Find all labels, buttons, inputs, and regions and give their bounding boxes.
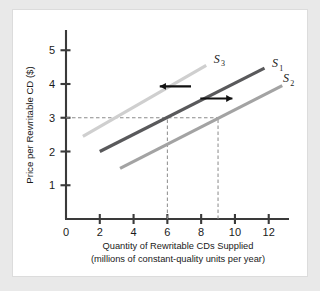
y-axis-title: Price per Rewritable CD ($) <box>24 66 35 183</box>
y-tick-label-5: 5 <box>49 44 55 56</box>
y-axis-tick-labels: 12345 <box>49 44 55 191</box>
x-tick-label-0: 0 <box>63 226 69 238</box>
x-tick-label-2: 2 <box>97 226 103 238</box>
axes <box>65 30 289 220</box>
x-tick-label-8: 8 <box>198 226 204 238</box>
figure-container: 12345 024681012 S3S1S2 Price per Rewrita… <box>0 0 320 291</box>
y-tick-label-2: 2 <box>49 146 55 158</box>
y-tick-label-4: 4 <box>49 78 55 90</box>
x-tick-label-4: 4 <box>131 226 137 238</box>
curve-label-S1: S1 <box>272 56 283 72</box>
supply-curves <box>83 65 282 168</box>
curve-label-text-S2: S <box>283 71 289 85</box>
x-axis-title-line2: (millions of constant-quality units per … <box>91 254 265 264</box>
y-tick-label-1: 1 <box>49 179 55 191</box>
shift-right-arrow-head <box>226 95 232 102</box>
shift-right-arrow <box>200 95 232 102</box>
y-tick-label-3: 3 <box>49 112 55 124</box>
curve-label-subscript-S3: 3 <box>221 59 225 68</box>
curve-label-text-S1: S <box>272 56 278 70</box>
supply-shift-chart: 12345 024681012 S3S1S2 Price per Rewrita… <box>0 0 320 291</box>
shift-arrows <box>160 83 233 102</box>
x-tick-label-10: 10 <box>229 226 241 238</box>
curve-label-S2: S2 <box>283 71 294 87</box>
x-tick-label-6: 6 <box>164 226 170 238</box>
curve-label-text-S3: S <box>214 52 220 66</box>
x-axis-title-line1: Quantity of Rewritable CDs Supplied <box>103 241 254 251</box>
supply-curve-labels: S3S1S2 <box>214 52 294 88</box>
curve-label-subscript-S2: 2 <box>290 79 294 88</box>
supply-curve-S3 <box>83 65 206 136</box>
x-tick-label-12: 12 <box>263 226 275 238</box>
curve-label-S3: S3 <box>214 52 225 68</box>
x-axis-tick-labels: 024681012 <box>63 226 275 238</box>
